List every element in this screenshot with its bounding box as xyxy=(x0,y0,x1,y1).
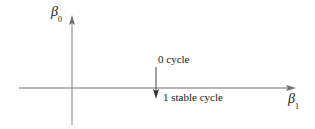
y-axis-label: β0 xyxy=(51,5,62,22)
x-axis-label-symbol: β xyxy=(288,91,295,106)
bifurcation-arrow xyxy=(153,67,159,99)
x-axis-label-subscript: 1 xyxy=(295,102,299,111)
bifurcation-diagram: β0 β1 0 cycle 1 stable cycle xyxy=(0,0,315,129)
y-axis-label-subscript: 0 xyxy=(58,15,62,24)
y-axis-label-symbol: β xyxy=(51,4,58,19)
annotation-one-stable-cycle: 1 stable cycle xyxy=(163,92,223,103)
vertical-axis xyxy=(69,15,75,125)
x-axis-label: β1 xyxy=(288,92,299,109)
annotation-zero-cycle: 0 cycle xyxy=(158,54,189,65)
